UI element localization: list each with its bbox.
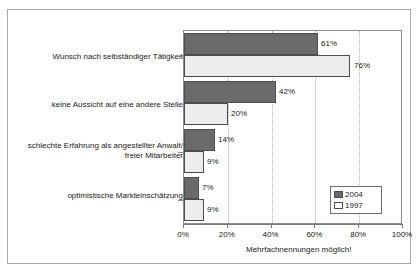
value-label-2004-0: 61% bbox=[321, 39, 337, 48]
legend-swatch-2004-icon bbox=[334, 191, 343, 198]
x-tick-20 bbox=[227, 224, 228, 228]
bar-2004-2 bbox=[184, 129, 215, 151]
bar-1997-3 bbox=[184, 199, 204, 221]
legend-item-1997: 1997 bbox=[334, 200, 378, 211]
category-label-0: Wunsch nach selbständiger Tätigkeit bbox=[53, 52, 183, 62]
value-label-2004-2: 14% bbox=[218, 135, 234, 144]
chart-footnote: Mehrfachnennungen möglich! bbox=[246, 245, 351, 254]
category-label-3: optimistische Markteinschätzung bbox=[67, 191, 183, 201]
chart-figure: Wunsch nach selbständiger Tätigkeit kein… bbox=[0, 0, 419, 279]
x-tick-100 bbox=[402, 224, 403, 228]
value-label-2004-3: 7% bbox=[202, 183, 214, 192]
value-label-1997-2: 9% bbox=[207, 157, 219, 166]
legend-item-2004: 2004 bbox=[334, 189, 378, 200]
value-label-1997-3: 9% bbox=[207, 205, 219, 214]
value-label-2004-1: 42% bbox=[279, 87, 295, 96]
x-tick-label-80: 80% bbox=[350, 230, 366, 239]
category-axis-labels: Wunsch nach selbständiger Tätigkeit kein… bbox=[10, 30, 183, 224]
x-tick-40 bbox=[271, 224, 272, 228]
x-tick-80 bbox=[358, 224, 359, 228]
x-tick-label-60: 60% bbox=[306, 230, 322, 239]
x-axis-line bbox=[183, 224, 402, 225]
category-label-1: keine Aussicht auf eine andere Stelle bbox=[52, 100, 183, 110]
bar-2004-3 bbox=[184, 177, 199, 199]
chart-legend: 2004 1997 bbox=[330, 186, 382, 214]
x-tick-0 bbox=[183, 224, 184, 228]
legend-swatch-1997-icon bbox=[334, 202, 343, 209]
bar-1997-0 bbox=[184, 55, 350, 77]
bar-2004-0 bbox=[184, 33, 318, 55]
x-tick-60 bbox=[314, 224, 315, 228]
x-tick-label-0: 0% bbox=[177, 230, 189, 239]
value-label-1997-0: 76% bbox=[354, 61, 370, 70]
bar-2004-1 bbox=[184, 81, 276, 103]
category-label-2: schlechte Erfahrung als angestellter Anw… bbox=[28, 141, 183, 161]
legend-label-2004: 2004 bbox=[345, 190, 363, 199]
x-tick-label-100: 100% bbox=[392, 230, 412, 239]
value-label-1997-1: 20% bbox=[231, 109, 247, 118]
bar-1997-2 bbox=[184, 151, 204, 173]
bar-1997-1 bbox=[184, 103, 228, 125]
x-tick-label-20: 20% bbox=[219, 230, 235, 239]
legend-label-1997: 1997 bbox=[345, 201, 363, 210]
x-tick-label-40: 40% bbox=[263, 230, 279, 239]
